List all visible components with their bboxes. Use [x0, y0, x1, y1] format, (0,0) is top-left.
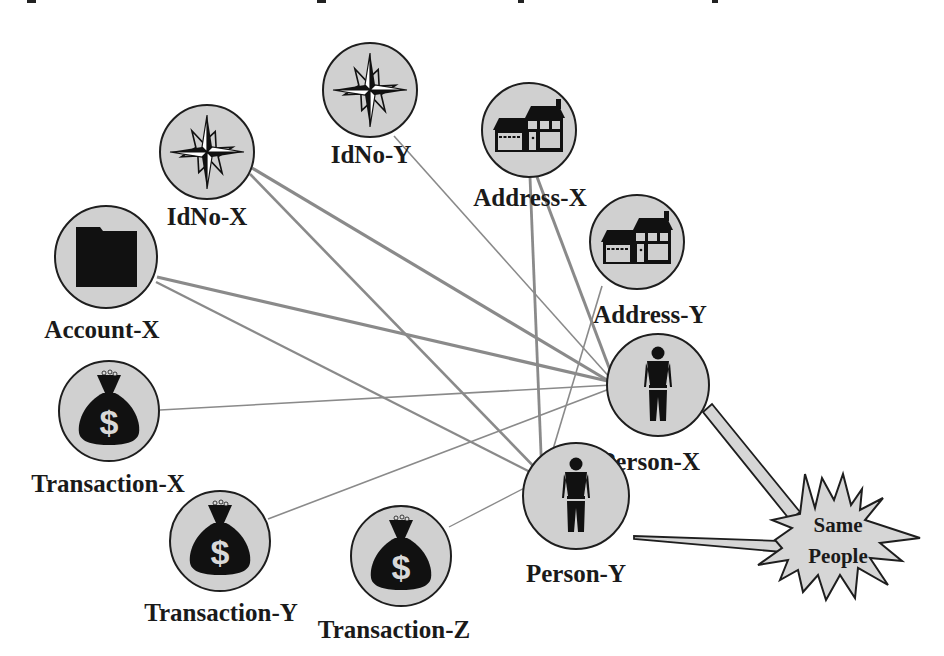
- node-person-y[interactable]: Person-Y: [523, 443, 629, 587]
- edge-transaction-x-to-person-x: [160, 385, 612, 410]
- edge-address-x-to-person-y: [530, 177, 542, 478]
- node-address-x[interactable]: Address-X: [473, 83, 586, 211]
- node-label: IdNo-X: [167, 203, 248, 230]
- node-idno-x[interactable]: IdNo-X: [160, 105, 254, 230]
- top-text-fragments: [27, 0, 718, 3]
- node-label: Transaction-X: [31, 470, 185, 497]
- callout-line-1: Same: [814, 513, 863, 537]
- callout-line-2: People: [808, 544, 867, 568]
- node-layer: IdNo-XIdNo-YAddress-XAddress-YAccount-XT…: [31, 43, 709, 643]
- node-label: Transaction-Y: [144, 599, 298, 626]
- node-account-x[interactable]: Account-X: [44, 206, 159, 343]
- edge-idno-y-to-person-x: [394, 136, 612, 380]
- node-address-y[interactable]: Address-Y: [590, 195, 707, 328]
- folder-icon: [76, 227, 137, 287]
- callout-pointer-person-y: [634, 536, 782, 552]
- entity-link-diagram: $ Same People IdNo-XIdNo-YAddress-XAddre…: [0, 0, 944, 656]
- callout-pointer-person-x: [703, 404, 800, 520]
- edge-account-x-to-person-x: [157, 277, 612, 382]
- node-person-x[interactable]: Person-X: [600, 334, 709, 475]
- node-label: IdNo-Y: [331, 141, 412, 168]
- edge-account-x-to-person-y: [156, 282, 542, 478]
- node-label: Address-Y: [593, 301, 706, 328]
- node-idno-y[interactable]: IdNo-Y: [323, 43, 417, 168]
- node-label: Person-Y: [526, 560, 626, 587]
- node-label: Address-X: [473, 184, 586, 211]
- node-transaction-y[interactable]: Transaction-Y: [144, 491, 298, 626]
- node-transaction-z[interactable]: Transaction-Z: [318, 506, 470, 643]
- node-label: Transaction-Z: [318, 616, 470, 643]
- node-transaction-x[interactable]: Transaction-X: [31, 361, 185, 497]
- node-label: Account-X: [44, 316, 159, 343]
